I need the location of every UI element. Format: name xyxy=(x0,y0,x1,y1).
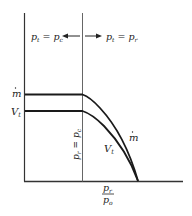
curve-label-mass-flow: m xyxy=(129,132,138,143)
label-subsonic-regime: pt = pc xyxy=(31,31,64,43)
x-label-denominator: po xyxy=(103,194,113,206)
x-label-numerator: pr xyxy=(103,182,113,194)
label-critical-pressure: pr = pc xyxy=(71,128,82,160)
curve-label-velocity: Vt xyxy=(104,143,114,156)
mdot-dot-y xyxy=(15,87,16,88)
mass-flow-curve xyxy=(25,95,138,182)
right-arrow-icon xyxy=(85,34,102,39)
velocity-curve xyxy=(25,111,138,181)
choked-flow-diagram: pt = pc pt = pr pr = pc m Vt m Vt pr po xyxy=(0,0,192,216)
y-label-velocity: Vt xyxy=(11,106,21,119)
label-choked-regime: pt = pr xyxy=(106,31,139,43)
y-label-mass-flow: m xyxy=(12,88,21,99)
left-arrow-icon xyxy=(62,34,80,39)
mdot-dot-curve xyxy=(132,131,133,132)
